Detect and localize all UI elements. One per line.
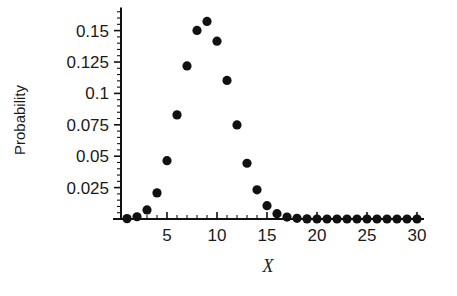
chart-background (0, 0, 457, 296)
data-point (332, 214, 341, 223)
y-axis-tick-label: 0.15 (76, 22, 109, 41)
data-point (342, 214, 351, 223)
data-point (242, 159, 251, 168)
data-point (232, 120, 241, 129)
data-point (322, 214, 331, 223)
data-point (282, 213, 291, 222)
y-axis-tick-label: 0.075 (66, 116, 109, 135)
data-point (172, 110, 181, 119)
data-point (222, 76, 231, 85)
y-axis-tick-label: 0.05 (76, 147, 109, 166)
data-point (412, 214, 421, 223)
x-axis-tick-label: 25 (358, 226, 377, 245)
data-point (302, 214, 311, 223)
data-point (142, 205, 151, 214)
data-point (402, 214, 411, 223)
x-axis-tick-label: 20 (308, 226, 327, 245)
data-point (262, 201, 271, 210)
data-point (132, 212, 141, 221)
x-axis-title: X (262, 256, 275, 276)
probability-scatter-plot: 0.0250.050.0750.10.1250.15 51015202530 P… (0, 0, 457, 296)
chart-figure: 0.0250.050.0750.10.1250.15 51015202530 P… (0, 0, 457, 296)
data-point (202, 17, 211, 26)
y-axis-tick-label: 0.1 (85, 84, 109, 103)
data-point (252, 185, 261, 194)
y-axis-tick-label: 0.025 (66, 179, 109, 198)
data-point (312, 214, 321, 223)
data-point (212, 37, 221, 46)
data-point (192, 26, 201, 35)
x-axis-tick-label: 10 (208, 226, 227, 245)
data-point (152, 188, 161, 197)
x-axis-tick-label: 30 (408, 226, 427, 245)
data-point (162, 156, 171, 165)
data-point (362, 214, 371, 223)
data-point (382, 214, 391, 223)
x-axis-tick-label: 15 (258, 226, 277, 245)
y-axis-tick-label: 0.125 (66, 53, 109, 72)
y-axis-title: Probability (11, 84, 28, 155)
data-point (272, 209, 281, 218)
data-point (392, 214, 401, 223)
x-axis-tick-label: 5 (162, 226, 171, 245)
data-point (182, 61, 191, 70)
data-point (352, 214, 361, 223)
data-point (122, 214, 131, 223)
data-point (292, 214, 301, 223)
data-point (372, 214, 381, 223)
